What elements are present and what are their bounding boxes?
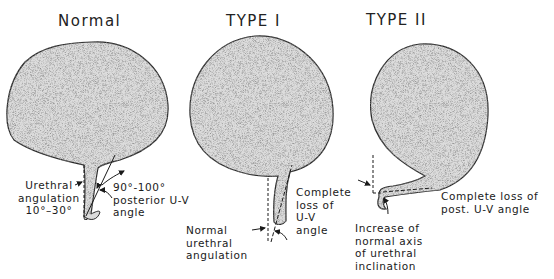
type1-complete-loss-label: Complete loss of U-V angle — [296, 186, 351, 236]
diagram-artwork — [0, 0, 554, 279]
type2-bladder — [371, 44, 488, 209]
type2-increase-axis-label: Increase of normal axis of urethral incl… — [355, 222, 423, 272]
type2-title: TYPE II — [366, 11, 427, 29]
type1-normal-angulation-label: Normal urethral angulation — [186, 224, 248, 262]
type1-title: TYPE I — [226, 12, 281, 30]
normal-title: Normal — [58, 12, 121, 30]
normal-urethral-angulation-label: Urethral angulation 10°–30° — [18, 179, 80, 217]
type2-complete-loss-label: Complete loss of post. U-V angle — [441, 190, 538, 215]
normal-posterior-angle-label: 90°-100° posterior U-V angle — [113, 181, 189, 219]
